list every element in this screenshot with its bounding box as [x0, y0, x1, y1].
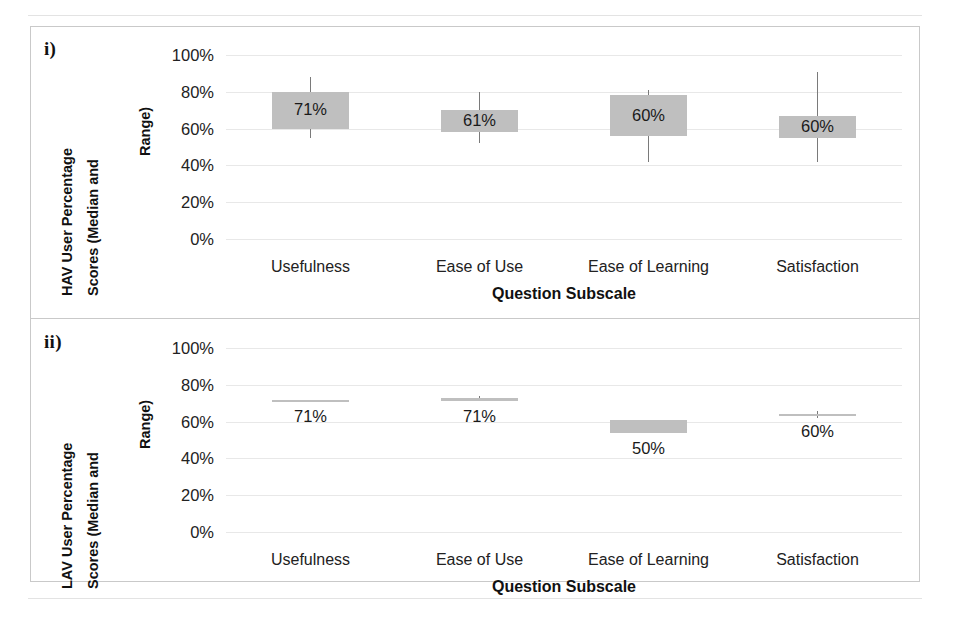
y-tick-label: 100% [172, 339, 214, 358]
panel-i-y-axis-title-line3: Range) [138, 107, 153, 156]
panel-ii: ii) LAV User Percentage Scores (Median a… [30, 319, 920, 611]
y-tick-label: 20% [181, 486, 214, 505]
y-tick-label: 0% [190, 230, 214, 249]
y-tick-label: 20% [181, 193, 214, 212]
panel-i-x-axis-title: Question Subscale [226, 285, 902, 303]
panel-ii-category-labels: UsefulnessEase of UseEase of LearningSat… [226, 551, 902, 575]
y-tick-label: 60% [181, 119, 214, 138]
y-tick-label: 40% [181, 449, 214, 468]
box-plot-mark: 50% [610, 348, 688, 532]
panel-ii-box-series: 71%71%50%60% [226, 348, 902, 532]
box-value-label: 60% [779, 422, 857, 441]
box-value-label: 71% [272, 100, 350, 119]
box-plot-mark: 71% [441, 348, 519, 532]
box-plot-mark: 60% [610, 55, 688, 239]
x-category-label: Ease of Learning [588, 258, 709, 276]
box-value-label: 71% [272, 407, 350, 426]
box-plot-mark: 71% [272, 348, 350, 532]
panel-i-box-series: 71%61%60%60% [226, 55, 902, 239]
box-plot-mark: 60% [779, 348, 857, 532]
y-tick-label: 80% [181, 82, 214, 101]
box-plot-mark: 61% [441, 55, 519, 239]
box-rect [441, 398, 519, 402]
panel-i-y-axis-title-line1: HAV User Percentage [60, 148, 75, 296]
y-tick-label: 0% [190, 523, 214, 542]
box-rect [272, 400, 350, 402]
box-rect [779, 414, 857, 416]
box-rect [610, 420, 688, 433]
x-category-label: Satisfaction [776, 551, 859, 569]
y-tick-label: 80% [181, 375, 214, 394]
panel-ii-x-axis-title: Question Subscale [226, 578, 902, 596]
x-category-label: Usefulness [271, 258, 350, 276]
x-category-label: Ease of Learning [588, 551, 709, 569]
panel-ii-plot-area: 0%20%40%60%80%100% 71%71%50%60% [226, 348, 902, 532]
box-value-label: 50% [610, 439, 688, 458]
box-plot-mark: 71% [272, 55, 350, 239]
box-value-label: 60% [779, 117, 857, 136]
panel-ii-y-axis-title-line1: LAV User Percentage [60, 443, 75, 589]
x-category-label: Ease of Use [436, 551, 523, 569]
panel-i-plot-area: 0%20%40%60%80%100% 71%61%60%60% [226, 55, 902, 239]
box-value-label: 60% [610, 106, 688, 125]
scan-streak-top [28, 15, 922, 16]
box-plot-mark: 60% [779, 55, 857, 239]
y-tick-label: 100% [172, 46, 214, 65]
x-category-label: Satisfaction [776, 258, 859, 276]
figure-root: i) HAV User Percentage Scores (Median an… [0, 0, 959, 624]
box-value-label: 61% [441, 111, 519, 130]
panel-i-category-labels: UsefulnessEase of UseEase of LearningSat… [226, 258, 902, 282]
x-category-label: Usefulness [271, 551, 350, 569]
y-tick-label: 60% [181, 412, 214, 431]
y-tick-label: 40% [181, 156, 214, 175]
x-category-label: Ease of Use [436, 258, 523, 276]
panel-i: i) HAV User Percentage Scores (Median an… [30, 26, 920, 318]
panel-ii-y-axis-title-line3: Range) [138, 400, 153, 449]
gridline-0 [226, 239, 902, 240]
gridline-0 [226, 532, 902, 533]
box-value-label: 71% [441, 407, 519, 426]
